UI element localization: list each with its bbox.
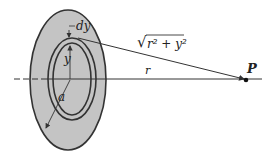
label-distance: √ r² + y² [137, 33, 187, 51]
label-a: a [58, 90, 65, 104]
distance-radicand: r² + y² [147, 37, 187, 51]
label-P: P [246, 61, 258, 76]
label-r: r [145, 64, 151, 77]
disc-field-diagram: dy y a r P √ r² + y² [0, 0, 277, 153]
label-y: y [63, 52, 71, 66]
point-P [244, 78, 249, 83]
sqrt-sign: √ [137, 33, 147, 51]
label-dy: dy [76, 19, 91, 33]
disc [30, 10, 106, 150]
